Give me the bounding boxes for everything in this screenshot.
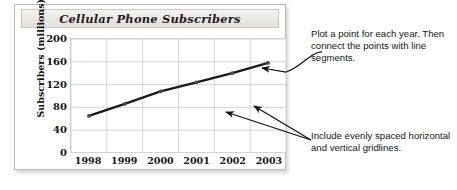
x-tick-label: 2003 xyxy=(256,155,282,166)
y-tick-label: 80 xyxy=(53,101,67,112)
y-axis-ticks: 20016012080400 xyxy=(41,33,67,157)
data-point xyxy=(266,61,270,65)
y-tick-label: 160 xyxy=(46,55,67,66)
x-tick-label: 2002 xyxy=(220,155,246,166)
data-point xyxy=(195,80,199,84)
y-tick-label: 0 xyxy=(60,147,67,158)
data-point xyxy=(230,71,234,75)
annotation-plot-points: Plot a point for each year. Then connect… xyxy=(311,28,453,65)
data-point xyxy=(123,102,127,106)
annotation-gridlines: Include evenly spaced horizontal and ver… xyxy=(311,130,453,154)
data-point xyxy=(159,90,163,94)
y-tick-label: 120 xyxy=(46,78,67,89)
plot-area xyxy=(70,38,287,153)
x-tick-label: 1999 xyxy=(111,155,137,166)
chart-panel: Cellular Phone Subscribers Subscribers (… xyxy=(14,4,286,170)
y-tick-label: 40 xyxy=(53,124,67,135)
y-tick-label: 200 xyxy=(46,33,67,44)
x-tick-label: 1998 xyxy=(75,155,101,166)
plot-svg xyxy=(71,39,286,153)
x-axis-ticks: 199819992000200120022003 xyxy=(70,155,287,169)
x-tick-label: 2000 xyxy=(147,155,173,166)
chart-title: Cellular Phone Subscribers xyxy=(21,9,279,28)
data-point xyxy=(87,114,91,118)
x-tick-label: 2001 xyxy=(183,155,209,166)
figure-root: Cellular Phone Subscribers Subscribers (… xyxy=(0,0,457,190)
gridlines-vertical xyxy=(71,39,286,153)
